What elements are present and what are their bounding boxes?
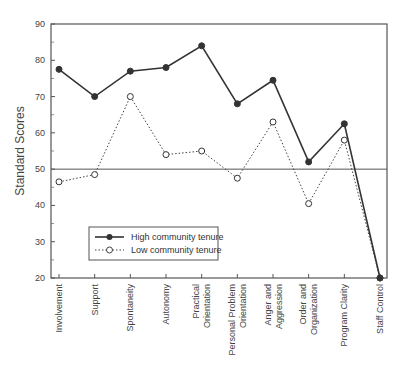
legend-label-high: High community tenure	[131, 232, 224, 242]
high-tenure-point	[92, 94, 98, 100]
x-tick-label: Personal ProblemOrientation	[227, 284, 248, 356]
x-tick-label: Anger andAggression	[263, 284, 284, 329]
low-tenure-point	[127, 94, 133, 100]
high-tenure-point	[234, 101, 240, 107]
high-tenure-point	[341, 121, 347, 127]
y-tick-label: 90	[35, 19, 45, 29]
y-tick-label: 40	[35, 200, 45, 210]
line-chart: 2030405060708090 InvolvementSupportSpont…	[0, 0, 406, 382]
high-tenure-point	[306, 159, 312, 165]
legend-label-low: Low community tenure	[131, 245, 222, 255]
y-tick-label: 30	[35, 237, 45, 247]
low-tenure-point	[306, 201, 312, 207]
high-tenure-point	[270, 77, 276, 83]
y-axis-ticks: 2030405060708090	[35, 19, 55, 283]
x-tick-label: PracticalOrientation	[191, 284, 212, 328]
y-axis-label: Standard Scores	[13, 106, 27, 195]
y-tick-label: 80	[35, 55, 45, 65]
y-tick-label: 70	[35, 92, 45, 102]
low-tenure-point	[56, 179, 62, 185]
low-tenure-point	[270, 119, 276, 125]
x-axis-ticks: InvolvementSupportSpontaneityAutonomyPra…	[54, 274, 385, 356]
high-tenure-point	[199, 43, 205, 49]
x-tick-label: Involvement	[54, 284, 64, 333]
x-tick-label: Spontaneity	[125, 284, 135, 332]
y-tick-label: 20	[35, 273, 45, 283]
y-tick-label: 50	[35, 164, 45, 174]
x-tick-label: Autonomy	[161, 284, 171, 325]
low-tenure-point	[199, 148, 205, 154]
legend-low-marker-icon	[107, 247, 113, 253]
legend: High community tenure Low community tenu…	[89, 227, 224, 260]
x-tick-label: Program Clarity	[339, 284, 349, 347]
high-tenure-point	[377, 275, 383, 281]
high-tenure-point	[127, 68, 133, 74]
low-tenure-point	[163, 152, 169, 158]
low-tenure-point	[341, 137, 347, 143]
high-tenure-point	[163, 65, 169, 71]
high-tenure-point	[56, 66, 62, 72]
low-tenure-point	[92, 172, 98, 178]
y-tick-label: 60	[35, 128, 45, 138]
x-tick-label: Support	[90, 284, 100, 316]
x-tick-label: Staff Control	[375, 284, 385, 334]
x-tick-label: Order andOrganization	[298, 284, 319, 335]
low-tenure-point	[234, 175, 240, 181]
legend-high-marker-icon	[107, 234, 113, 240]
